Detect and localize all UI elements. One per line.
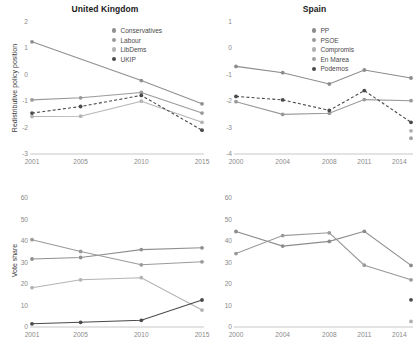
data-point-pp bbox=[234, 230, 238, 234]
data-point-compromis bbox=[409, 320, 413, 324]
data-point-pp bbox=[327, 82, 331, 86]
data-point-ukip bbox=[139, 94, 143, 98]
legend-label: LibDems bbox=[120, 45, 146, 54]
data-point-conservatives bbox=[30, 40, 34, 44]
data-point-pp bbox=[362, 68, 366, 72]
series-line-pp bbox=[236, 231, 411, 265]
data-point-psoe bbox=[362, 263, 366, 267]
legend-swatch-icon bbox=[312, 67, 316, 71]
data-point-labour bbox=[79, 250, 83, 254]
data-point-labour bbox=[30, 238, 34, 242]
data-point-conservatives bbox=[200, 246, 204, 250]
data-point-podemos bbox=[281, 98, 285, 102]
data-point-pp bbox=[409, 264, 413, 268]
data-point-pp bbox=[362, 229, 366, 233]
data-point-libdems bbox=[30, 115, 34, 119]
data-point-conservatives bbox=[139, 79, 143, 83]
data-point-conservatives bbox=[30, 257, 34, 261]
data-point-podemos bbox=[409, 120, 413, 124]
legend-swatch-icon bbox=[312, 57, 316, 61]
legend-item-libdems[interactable]: LibDems bbox=[112, 45, 162, 54]
legend-item-compromis[interactable]: Compromis bbox=[312, 45, 354, 54]
legend-swatch-icon bbox=[312, 38, 316, 42]
data-point-libdems bbox=[79, 278, 83, 282]
data-point-ukip bbox=[200, 128, 204, 132]
data-point-conservatives bbox=[139, 248, 143, 252]
series-line-psoe bbox=[236, 100, 411, 115]
legend-uk_policy: ConservativesLabourLibDemsUKIP bbox=[112, 26, 162, 64]
data-point-libdems bbox=[200, 308, 204, 312]
panel-spain_policy: Spain10-1-2-3-420002004200820112014PPPSO… bbox=[210, 0, 419, 180]
data-point-libdems bbox=[79, 114, 83, 118]
data-point-libdems bbox=[200, 120, 204, 124]
data-point-psoe bbox=[327, 231, 331, 235]
series-line-ukip bbox=[32, 300, 202, 324]
data-point-podemos bbox=[362, 89, 366, 93]
legend-item-labour[interactable]: Labour bbox=[112, 36, 162, 45]
figure-root: United KingdomRedistributive policy posi… bbox=[0, 0, 419, 355]
series-line-conservatives bbox=[32, 248, 202, 259]
plot-area-uk_vote bbox=[0, 180, 210, 355]
data-point-podemos bbox=[327, 109, 331, 113]
data-point-psoe bbox=[234, 252, 238, 256]
legend-label: PSOE bbox=[320, 36, 338, 45]
legend-swatch-icon bbox=[112, 28, 116, 32]
series-line-ukip bbox=[32, 95, 202, 130]
data-point-labour bbox=[139, 263, 143, 267]
data-point-labour bbox=[30, 98, 34, 102]
data-point-conservatives bbox=[79, 256, 83, 260]
data-point-ukip bbox=[30, 111, 34, 115]
data-point-labour bbox=[200, 260, 204, 264]
data-point-pp bbox=[327, 240, 331, 244]
legend-swatch-icon bbox=[112, 38, 116, 42]
data-point-compromis bbox=[409, 129, 413, 133]
series-line-labour bbox=[32, 93, 202, 114]
legend-spain_policy: PPPSOECompromisEn MareaPodemos bbox=[312, 26, 354, 74]
data-point-ukip bbox=[30, 322, 34, 326]
data-point-psoe bbox=[281, 113, 285, 117]
legend-swatch-icon bbox=[312, 47, 316, 51]
data-point-libdems bbox=[139, 99, 143, 103]
data-point-ukip bbox=[200, 298, 204, 302]
panel-uk_vote: Vote share01020304050602001200520102015 bbox=[0, 180, 210, 355]
data-point-libdems bbox=[139, 276, 143, 280]
data-point-libdems bbox=[30, 286, 34, 290]
data-point-psoe bbox=[409, 278, 413, 282]
data-point-conservatives bbox=[200, 102, 204, 106]
data-point-en-marea bbox=[409, 136, 413, 140]
legend-swatch-icon bbox=[112, 57, 116, 61]
legend-item-ukip[interactable]: UKIP bbox=[112, 55, 162, 64]
legend-swatch-icon bbox=[112, 47, 116, 51]
legend-label: Labour bbox=[120, 36, 141, 45]
data-point-pp bbox=[281, 71, 285, 75]
data-point-psoe bbox=[362, 98, 366, 102]
panel-uk_policy: United KingdomRedistributive policy posi… bbox=[0, 0, 210, 180]
data-point-labour bbox=[79, 96, 83, 100]
plot-area-uk_policy bbox=[0, 0, 210, 180]
data-point-ukip bbox=[139, 318, 143, 322]
series-line-libdems bbox=[32, 278, 202, 310]
data-point-podemos bbox=[409, 298, 413, 302]
legend-label: Compromis bbox=[320, 45, 354, 54]
legend-item-en-marea[interactable]: En Marea bbox=[312, 55, 354, 64]
data-point-psoe bbox=[281, 234, 285, 238]
data-point-podemos bbox=[234, 95, 238, 99]
legend-item-conservatives[interactable]: Conservatives bbox=[112, 26, 162, 35]
legend-label: En Marea bbox=[320, 55, 349, 64]
legend-item-psoe[interactable]: PSOE bbox=[312, 36, 354, 45]
panel-spain_vote: 010203040506020002004200820112014 bbox=[210, 180, 419, 355]
plot-area-spain_vote bbox=[210, 180, 419, 355]
data-point-pp bbox=[409, 76, 413, 80]
legend-label: PP bbox=[320, 26, 329, 35]
legend-label: Conservatives bbox=[120, 26, 162, 35]
data-point-psoe bbox=[234, 100, 238, 104]
data-point-pp bbox=[234, 65, 238, 69]
data-point-ukip bbox=[79, 105, 83, 109]
legend-item-podemos[interactable]: Podemos bbox=[312, 64, 354, 73]
legend-swatch-icon bbox=[312, 28, 316, 32]
data-point-labour bbox=[200, 111, 204, 115]
legend-label: UKIP bbox=[120, 55, 135, 64]
data-point-ukip bbox=[79, 320, 83, 324]
legend-item-pp[interactable]: PP bbox=[312, 26, 354, 35]
series-line-podemos bbox=[236, 91, 411, 123]
